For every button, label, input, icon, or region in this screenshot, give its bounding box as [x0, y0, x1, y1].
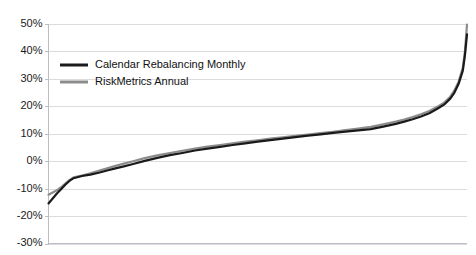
legend-label-0: Calendar Rebalancing Monthly [95, 58, 246, 70]
y-tick-label: 30% [20, 72, 42, 84]
y-tick-label: 10% [20, 127, 42, 139]
y-tick-label: 0% [27, 154, 43, 166]
y-tick-label: -30% [17, 236, 43, 248]
line-chart: 50%40%30%20%10%0%-10%-20%-30% Calendar R… [0, 0, 476, 255]
chart-container: 50%40%30%20%10%0%-10%-20%-30% Calendar R… [0, 0, 476, 255]
y-tick-label: -20% [17, 209, 43, 221]
y-tick-label: 50% [20, 17, 42, 29]
y-tick-label: 20% [20, 99, 42, 111]
y-tick-label: 40% [20, 44, 42, 56]
legend-label-1: RiskMetrics Annual [95, 75, 189, 87]
y-tick-label: -10% [17, 182, 43, 194]
